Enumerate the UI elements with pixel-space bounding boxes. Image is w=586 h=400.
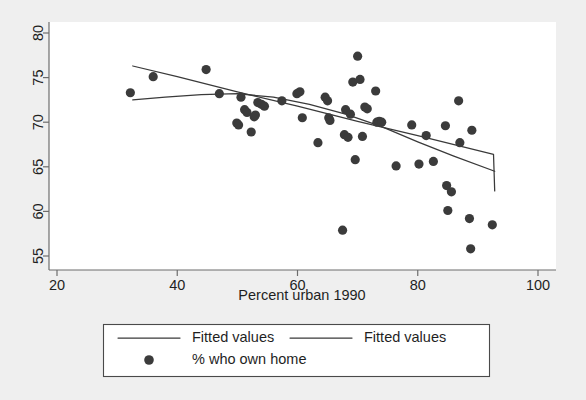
scatter-point [298, 113, 307, 122]
x-tick-label: 40 [169, 277, 185, 293]
legend-label: Fitted values [192, 329, 274, 345]
y-tick-label: 65 [30, 159, 46, 175]
plot-panel [49, 22, 556, 270]
y-axis-tick-labels: 556065707580 [30, 25, 46, 264]
scatter-point [277, 96, 286, 105]
y-axis-ticks [43, 33, 49, 256]
scatter-point [295, 87, 304, 96]
scatter-point [465, 214, 474, 223]
scatter-point [234, 120, 243, 129]
scatter-point [215, 89, 224, 98]
scatter-point [260, 102, 269, 111]
legend-label: % who own home [192, 351, 306, 367]
scatter-point [251, 110, 260, 119]
scatter-point [371, 86, 380, 95]
scatter-point [323, 96, 332, 105]
x-axis-title: Percent urban 1990 [238, 287, 365, 303]
x-tick-label: 100 [526, 277, 550, 293]
y-tick-label: 60 [30, 203, 46, 219]
scatter-point [363, 104, 372, 113]
chart-figure: 556065707580 20406080100 Percent urban 1… [0, 0, 586, 400]
scatter-point [313, 138, 322, 147]
scatter-point [455, 138, 464, 147]
scatter-point [414, 160, 423, 169]
scatter-point [443, 206, 452, 215]
scatter-point [392, 161, 401, 170]
scatter-point [236, 93, 245, 102]
scatter-point [343, 133, 352, 142]
scatter-point [454, 96, 463, 105]
scatter-point [422, 131, 431, 140]
y-tick-label: 75 [30, 70, 46, 86]
scatter-point [325, 116, 334, 125]
x-tick-label: 80 [410, 277, 426, 293]
y-tick-label: 80 [30, 25, 46, 41]
scatter-point [346, 110, 355, 119]
scatter-point [338, 226, 347, 235]
scatter-point [126, 88, 135, 97]
legend-marker-swatch [144, 355, 154, 365]
scatter-point [358, 132, 367, 141]
scatter-point [488, 220, 497, 229]
scatter-point [202, 65, 211, 74]
scatter-point [351, 155, 360, 164]
scatter-point [149, 72, 158, 81]
scatter-point [467, 126, 476, 135]
scatter-point [441, 121, 450, 130]
scatter-point [353, 52, 362, 61]
x-axis-ticks [57, 270, 538, 276]
scatter-point [377, 118, 386, 127]
scatter-plot-svg: 556065707580 20406080100 Percent urban 1… [0, 0, 586, 400]
scatter-point [466, 244, 475, 253]
x-tick-label: 20 [49, 277, 65, 293]
scatter-point [447, 187, 456, 196]
scatter-point [247, 127, 256, 136]
scatter-point [355, 75, 364, 84]
scatter-point [429, 157, 438, 166]
scatter-point [407, 120, 416, 129]
y-tick-label: 70 [30, 114, 46, 130]
legend-label: Fitted values [364, 329, 446, 345]
y-tick-label: 55 [30, 248, 46, 264]
